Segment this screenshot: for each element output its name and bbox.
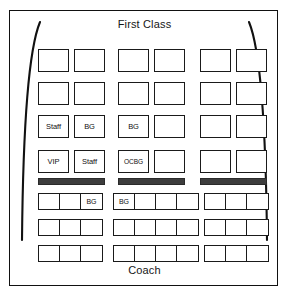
seat[interactable]: [154, 49, 185, 72]
coach-right-row-2: [204, 219, 269, 236]
coach-right-row-1: [204, 193, 269, 210]
seat[interactable]: [247, 246, 268, 261]
seat[interactable]: [154, 82, 185, 105]
exit-row-bar-right: [200, 178, 267, 185]
seat[interactable]: [200, 82, 231, 105]
seat[interactable]: [226, 246, 247, 261]
seat-ocbg[interactable]: OCBG: [118, 150, 149, 173]
seat[interactable]: [200, 150, 231, 173]
seat[interactable]: [135, 246, 156, 261]
seat[interactable]: [60, 220, 81, 235]
coach-left-row-1: BG: [38, 193, 103, 210]
seat[interactable]: [118, 82, 149, 105]
seat[interactable]: [39, 220, 60, 235]
seat[interactable]: [156, 246, 177, 261]
seat[interactable]: [236, 82, 267, 105]
seat[interactable]: [81, 246, 102, 261]
seat[interactable]: [247, 220, 268, 235]
seat[interactable]: [154, 115, 185, 138]
seat[interactable]: [39, 246, 60, 261]
seat[interactable]: [114, 220, 135, 235]
seat[interactable]: [81, 220, 102, 235]
fc-center-row-2: [118, 82, 185, 105]
coach-center-row-1: BG: [113, 193, 199, 210]
fc-left-row-2: [38, 82, 105, 105]
fc-right-row-2: [200, 82, 267, 105]
seat[interactable]: [236, 150, 267, 173]
seat[interactable]: [177, 194, 198, 209]
seat-staff[interactable]: Staff: [38, 115, 69, 138]
seat[interactable]: [236, 49, 267, 72]
seat[interactable]: [156, 220, 177, 235]
fc-center-row-1: [118, 49, 185, 72]
seat[interactable]: [177, 220, 198, 235]
seat[interactable]: [60, 246, 81, 261]
seat[interactable]: [135, 220, 156, 235]
fc-left-row-4: VIP Staff: [38, 150, 105, 173]
seat[interactable]: [226, 220, 247, 235]
seat-bg[interactable]: BG: [74, 115, 105, 138]
seat-bg[interactable]: BG: [81, 194, 102, 209]
coach-section-title: Coach: [10, 264, 279, 276]
seat[interactable]: [205, 220, 226, 235]
fc-right-row-4: [200, 150, 267, 173]
fc-left-row-3: Staff BG: [38, 115, 105, 138]
coach-left-row-3: [38, 245, 103, 262]
seat[interactable]: [247, 194, 268, 209]
seat[interactable]: [200, 115, 231, 138]
seat[interactable]: [38, 49, 69, 72]
cabin-frame: First Class Staff BG VIP Staff: [9, 10, 278, 286]
seat[interactable]: [205, 194, 226, 209]
seat[interactable]: [205, 246, 226, 261]
seat[interactable]: [74, 82, 105, 105]
fc-center-row-3: BG: [118, 115, 185, 138]
coach-left-row-2: [38, 219, 103, 236]
coach-right-row-3: [204, 245, 269, 262]
fc-left-row-1: [38, 49, 105, 72]
exit-row-bar-left: [38, 178, 105, 185]
fc-right-row-1: [200, 49, 267, 72]
coach-center-row-3: [113, 245, 199, 262]
seat[interactable]: [236, 115, 267, 138]
coach-center-row-2: [113, 219, 199, 236]
seat-bg[interactable]: BG: [118, 115, 149, 138]
seat[interactable]: [39, 194, 60, 209]
seat[interactable]: [156, 194, 177, 209]
seat[interactable]: [74, 49, 105, 72]
seat[interactable]: [114, 246, 135, 261]
seat[interactable]: [118, 49, 149, 72]
exit-row-bar-center: [118, 178, 185, 185]
first-class-section-title: First Class: [10, 18, 279, 30]
cabin-seating-diagram: First Class Staff BG VIP Staff: [0, 0, 288, 296]
seat[interactable]: [38, 82, 69, 105]
seat[interactable]: [60, 194, 81, 209]
seat[interactable]: [154, 150, 185, 173]
seat-bg[interactable]: BG: [114, 194, 135, 209]
seat-staff[interactable]: Staff: [74, 150, 105, 173]
seat[interactable]: [226, 194, 247, 209]
seat-vip[interactable]: VIP: [38, 150, 69, 173]
seat[interactable]: [200, 49, 231, 72]
seat[interactable]: [135, 194, 156, 209]
seat[interactable]: [177, 246, 198, 261]
fc-right-row-3: [200, 115, 267, 138]
fc-center-row-4: OCBG: [118, 150, 185, 173]
